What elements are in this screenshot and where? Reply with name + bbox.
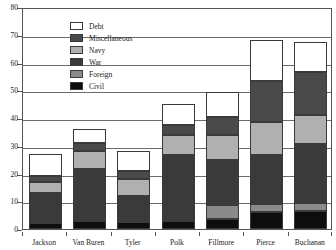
bar-segment-debt[interactable] xyxy=(117,151,150,170)
bar-segment-debt[interactable] xyxy=(162,104,195,125)
bar-stack[interactable] xyxy=(73,129,106,229)
legend-swatch-icon xyxy=(70,22,83,30)
legend-item-war[interactable]: War xyxy=(70,56,166,68)
legend-item-debt[interactable]: Debt xyxy=(70,20,166,32)
x-tick-label-fillmore: Fillmore xyxy=(199,238,243,247)
bar-stack[interactable] xyxy=(206,92,239,229)
x-tick-label-van-buren: Van Buren xyxy=(66,238,110,247)
x-tick-mark xyxy=(331,232,332,236)
legend-label: Civil xyxy=(89,82,104,91)
x-tick-mark xyxy=(155,232,156,236)
x-axis: JacksonVan BurenTylerPolkFillmorePierceB… xyxy=(22,232,332,250)
legend-item-miscellaneous[interactable]: Miscellaneous xyxy=(70,32,166,44)
legend-label: Foreign xyxy=(89,70,112,79)
bar-segment-civil[interactable] xyxy=(206,219,239,229)
legend-swatch-icon xyxy=(70,46,83,54)
bar-segment-navy[interactable] xyxy=(29,182,62,193)
bar-stack[interactable] xyxy=(294,42,327,229)
bar-segment-navy[interactable] xyxy=(117,179,150,196)
bar-segment-civil[interactable] xyxy=(294,211,327,229)
x-tick-label-jackson: Jackson xyxy=(22,238,66,247)
bar-segment-civil[interactable] xyxy=(73,221,106,229)
x-tick-label-polk: Polk xyxy=(155,238,199,247)
bar-segment-foreign[interactable] xyxy=(294,203,327,211)
bar-segment-navy[interactable] xyxy=(294,115,327,144)
bar-segment-navy[interactable] xyxy=(250,122,283,155)
bar-segment-navy[interactable] xyxy=(162,135,195,156)
legend-item-civil[interactable]: Civil xyxy=(70,80,166,92)
bar-segment-foreign[interactable] xyxy=(206,205,239,219)
y-tick-label: 70 xyxy=(11,32,19,40)
bar-segment-war[interactable] xyxy=(117,196,150,222)
chart-legend: DebtMiscellaneousNavyWarForeignCivil xyxy=(70,20,166,92)
y-tick-label: 40 xyxy=(11,115,19,123)
bar-segment-civil[interactable] xyxy=(250,212,283,229)
bar-segment-miscellaneous[interactable] xyxy=(73,143,106,151)
x-tick-label-buchanan: Buchanan xyxy=(288,238,332,247)
x-tick-mark xyxy=(243,232,244,236)
legend-label: Navy xyxy=(89,46,105,55)
bar-segment-miscellaneous[interactable] xyxy=(294,72,327,115)
bar-segment-miscellaneous[interactable] xyxy=(117,171,150,179)
bar-segment-debt[interactable] xyxy=(29,154,62,176)
bar-stack[interactable] xyxy=(117,151,150,229)
legend-item-foreign[interactable]: Foreign xyxy=(70,68,166,80)
x-tick-mark xyxy=(66,232,67,236)
plot-area: DebtMiscellaneousNavyWarForeignCivil xyxy=(22,8,332,230)
bar-segment-civil[interactable] xyxy=(162,221,195,229)
bar-segment-foreign[interactable] xyxy=(250,204,283,212)
y-tick-label: 60 xyxy=(11,60,19,68)
y-tick-label: 0 xyxy=(14,226,18,234)
bar-stack[interactable] xyxy=(29,154,62,229)
legend-label: War xyxy=(89,58,101,67)
bar-stack[interactable] xyxy=(250,40,283,229)
legend-item-navy[interactable]: Navy xyxy=(70,44,166,56)
bar-segment-miscellaneous[interactable] xyxy=(162,125,195,135)
y-axis: 01020304050607080 xyxy=(0,0,22,250)
bar-segment-miscellaneous[interactable] xyxy=(29,176,62,182)
bar-segment-debt[interactable] xyxy=(206,92,239,117)
y-tick-label: 10 xyxy=(11,198,19,206)
bar-segment-war[interactable] xyxy=(162,155,195,220)
bar-segment-war[interactable] xyxy=(250,155,283,204)
legend-swatch-icon xyxy=(70,34,83,42)
x-tick-mark xyxy=(111,232,112,236)
bar-segment-navy[interactable] xyxy=(206,135,239,160)
bar-segment-war[interactable] xyxy=(29,193,62,224)
y-tick-label: 20 xyxy=(11,171,19,179)
bar-segment-war[interactable] xyxy=(294,144,327,202)
bar-segment-navy[interactable] xyxy=(73,151,106,169)
bar-segment-debt[interactable] xyxy=(294,42,327,73)
stacked-bar-chart: 01020304050607080 DebtMiscellaneousNavyW… xyxy=(0,0,336,250)
bar-segment-war[interactable] xyxy=(206,160,239,206)
x-tick-mark xyxy=(199,232,200,236)
bar-segment-debt[interactable] xyxy=(73,129,106,143)
legend-swatch-icon xyxy=(70,58,83,66)
bar-segment-civil[interactable] xyxy=(117,222,150,229)
bar-segment-miscellaneous[interactable] xyxy=(250,81,283,123)
x-tick-mark xyxy=(22,232,23,236)
y-tick-label: 30 xyxy=(11,143,19,151)
bar-segment-debt[interactable] xyxy=(250,40,283,80)
bar-segment-war[interactable] xyxy=(73,169,106,220)
y-tick-label: 80 xyxy=(11,4,19,12)
legend-label: Debt xyxy=(89,22,104,31)
x-tick-label-tyler: Tyler xyxy=(111,238,155,247)
bar-segment-civil[interactable] xyxy=(29,223,62,229)
y-tick-label: 50 xyxy=(11,87,19,95)
legend-label: Miscellaneous xyxy=(89,34,132,43)
x-tick-mark xyxy=(288,232,289,236)
legend-swatch-icon xyxy=(70,82,83,90)
bar-stack[interactable] xyxy=(162,104,195,229)
legend-swatch-icon xyxy=(70,70,83,78)
bar-segment-miscellaneous[interactable] xyxy=(206,117,239,135)
x-tick-label-pierce: Pierce xyxy=(243,238,287,247)
